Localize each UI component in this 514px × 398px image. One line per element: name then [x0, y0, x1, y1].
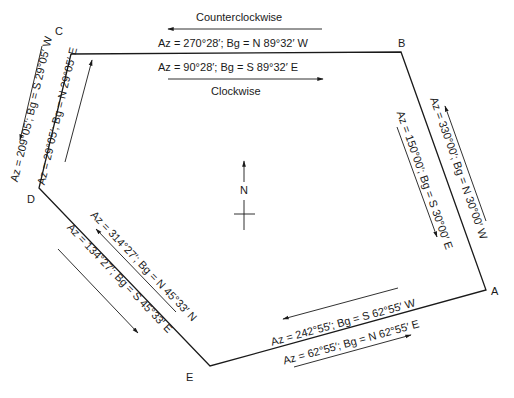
vertex-label-e: E — [186, 371, 193, 383]
course-label-cb-clockwise: Az = 90°28′; Bg = S 89°32′ E — [158, 61, 298, 73]
vertex-label-c: C — [55, 25, 63, 37]
clockwise-label: Clockwise — [211, 85, 261, 97]
counterclockwise-label: Counterclockwise — [196, 11, 282, 23]
vertex-label-a: A — [491, 285, 498, 297]
vertex-label-b: B — [398, 37, 405, 49]
north-label: N — [240, 184, 248, 196]
course-label-cb-counterclockwise: Az = 270°28′; Bg = N 89°32′ W — [158, 37, 308, 49]
vertex-label-d: D — [27, 193, 35, 205]
